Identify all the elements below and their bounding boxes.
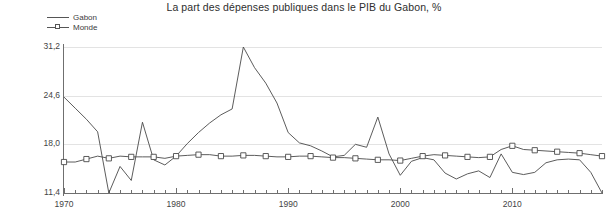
series-marker-monde bbox=[173, 154, 178, 159]
chart-container: La part des dépenses publiques dans le P… bbox=[0, 0, 608, 214]
series-marker-monde bbox=[286, 154, 291, 159]
series-line-gabon bbox=[64, 47, 602, 193]
series-marker-monde bbox=[442, 153, 447, 158]
series-marker-monde bbox=[375, 157, 380, 162]
series-marker-monde bbox=[330, 155, 335, 160]
series-marker-monde bbox=[196, 152, 201, 157]
x-axis-label: 2010 bbox=[503, 199, 522, 209]
series-marker-monde bbox=[263, 154, 268, 159]
series-marker-monde bbox=[151, 154, 156, 159]
series-marker-monde bbox=[129, 154, 134, 159]
series-marker-monde bbox=[106, 156, 111, 161]
x-axis-label: 1990 bbox=[279, 199, 298, 209]
series-marker-monde bbox=[420, 154, 425, 159]
x-axis-tick-labels: 19701980199020002010 bbox=[0, 199, 608, 213]
plot-svg bbox=[64, 47, 602, 193]
series-marker-monde bbox=[465, 154, 470, 159]
x-axis-label: 1980 bbox=[167, 199, 186, 209]
series-marker-monde bbox=[84, 156, 89, 161]
plot-area bbox=[64, 47, 602, 193]
series-marker-monde bbox=[241, 153, 246, 158]
series-marker-monde bbox=[577, 151, 582, 156]
series-marker-monde bbox=[532, 148, 537, 153]
x-axis-label: 1970 bbox=[55, 199, 74, 209]
series-marker-monde bbox=[487, 154, 492, 159]
series-marker-monde bbox=[510, 143, 515, 148]
series-marker-monde bbox=[308, 154, 313, 159]
series-marker-monde bbox=[218, 154, 223, 159]
x-axis-line bbox=[63, 193, 602, 194]
series-marker-monde bbox=[353, 156, 358, 161]
series-marker-monde bbox=[599, 154, 604, 159]
x-axis-tick bbox=[602, 190, 603, 194]
series-marker-monde bbox=[61, 159, 66, 164]
series-marker-monde bbox=[555, 149, 560, 154]
x-axis-label: 2000 bbox=[391, 199, 410, 209]
series-marker-monde bbox=[398, 158, 403, 163]
